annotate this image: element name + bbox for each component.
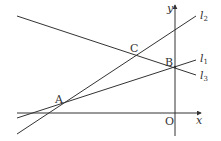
line-l1-label: l1 — [200, 52, 208, 66]
origin-label: O — [165, 115, 174, 128]
point-a-label: A — [54, 93, 64, 106]
point-b-label: B — [165, 56, 173, 69]
point-b-dot — [174, 66, 176, 68]
line-l3-label: l3 — [200, 69, 208, 83]
x-axis-label: x — [196, 114, 203, 127]
coordinate-diagram: y x O A B C l2 l1 l3 — [0, 0, 221, 141]
y-axis-label: y — [166, 2, 174, 15]
line-l2-label: l2 — [200, 9, 208, 23]
point-c-label: C — [130, 42, 138, 55]
diagram-svg: y x O A B C l2 l1 l3 — [0, 0, 221, 141]
